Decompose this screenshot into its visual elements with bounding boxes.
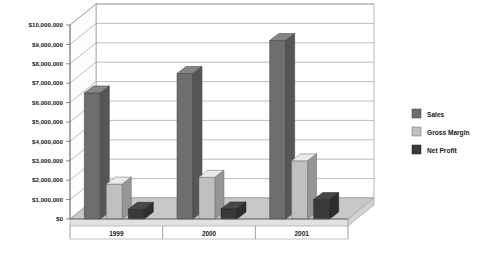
bar-gross-margin-1999: [106, 177, 131, 219]
bar-front-face: [177, 74, 193, 220]
legend-label: Net Profit: [427, 147, 457, 154]
bar-chart-3d: $0$1,000,000$2,000,000$3,000,000$4,000,0…: [0, 0, 487, 254]
bar-front-face: [106, 184, 122, 219]
floor-front-edge: [70, 219, 348, 226]
x-axis-category-label: 2001: [295, 230, 310, 237]
legend-item[interactable]: Sales: [412, 109, 445, 118]
x-axis-category-labels: 199920002001: [109, 230, 309, 237]
bar-front-face: [270, 41, 286, 219]
y-axis-tick-labels: $0$1,000,000$2,000,000$3,000,000$4,000,0…: [29, 21, 64, 222]
y-axis-tick-label: $5,000,000: [32, 118, 64, 125]
bar-front-face: [199, 177, 215, 219]
bar-gross-margin-2000: [199, 170, 224, 219]
bar-front-face: [128, 209, 144, 219]
y-axis-tick-label: $3,000,000: [32, 157, 64, 164]
legend-swatch: [412, 145, 421, 154]
chart-legend: SalesGross MarginNet Profit: [412, 109, 470, 154]
y-axis-tick-label: $10,000,000: [29, 21, 64, 28]
legend-swatch: [412, 127, 421, 136]
chart-container: $0$1,000,000$2,000,000$3,000,000$4,000,0…: [0, 0, 487, 254]
bar-front-face: [292, 161, 308, 219]
bar-net-profit-2001: [314, 193, 339, 219]
y-axis-tick-label: $1,000,000: [32, 196, 64, 203]
bar-sales-2000: [177, 67, 202, 220]
bar-gross-margin-2001: [292, 154, 317, 219]
bar-front-face: [314, 200, 330, 219]
y-axis-tick-label: $8,000,000: [32, 60, 64, 67]
y-axis-tick-label: $6,000,000: [32, 99, 64, 106]
bar-sales-2001: [270, 34, 295, 219]
legend-item[interactable]: Net Profit: [412, 145, 457, 154]
bar-front-face: [221, 209, 237, 219]
legend-swatch: [412, 109, 421, 118]
x-axis-category-label: 2000: [202, 230, 217, 237]
bar-front-face: [84, 93, 100, 219]
y-axis-tick-label: $7,000,000: [32, 79, 64, 86]
legend-label: Sales: [427, 111, 445, 118]
x-axis-category-label: 1999: [109, 230, 124, 237]
y-axis-tick-label: $4,000,000: [32, 138, 64, 145]
legend-item[interactable]: Gross Margin: [412, 127, 470, 137]
legend-label: Gross Margin: [427, 129, 470, 137]
y-axis-tick-label: $0: [56, 215, 63, 222]
bar-sales-1999: [84, 86, 109, 219]
y-axis-tick-label: $2,000,000: [32, 176, 64, 183]
y-axis-tick-label: $9,000,000: [32, 41, 64, 48]
